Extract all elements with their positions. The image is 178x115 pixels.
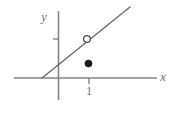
coordinate-plane-graphic: x y 1: [0, 0, 178, 115]
x-axis-label: x: [159, 70, 166, 84]
x-axis-tick-1-label: 1: [86, 85, 92, 97]
closed-point-marker: [85, 60, 92, 67]
figure-container: x y 1: [0, 0, 178, 115]
open-point-marker: [84, 36, 91, 43]
y-axis-label: y: [39, 10, 47, 24]
